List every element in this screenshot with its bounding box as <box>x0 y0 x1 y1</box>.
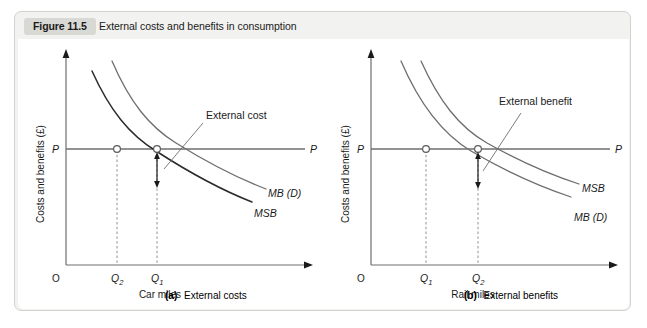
caption-a-text: External costs <box>184 290 247 301</box>
caption-row: (a) External costs (b) External benefits <box>15 290 630 312</box>
marker-q2-b <box>475 146 482 153</box>
origin-label-b: O <box>357 273 365 284</box>
figure-header: Figure 11.5 External costs and benefits … <box>15 12 630 40</box>
curve-label-msb-b: MSB <box>582 182 605 194</box>
curve-msb-b <box>421 61 579 184</box>
caption-a: (a) External costs <box>165 290 247 301</box>
marker-q2-a <box>114 146 121 153</box>
annotation-external-cost: External cost <box>206 109 267 121</box>
caption-b-label: (b) <box>464 290 477 301</box>
origin-label-a: O <box>52 273 60 284</box>
panel-area: External cost MB(D) MSB P P O Q2 <box>18 39 629 309</box>
price-label-left-a: P <box>52 143 59 155</box>
curve-mb-d-b <box>401 61 571 197</box>
caption-b-text: External benefits <box>484 290 559 301</box>
x-axis-a <box>66 262 313 269</box>
y-axis-b <box>368 49 375 265</box>
external-cost-leader <box>164 123 203 169</box>
chart-b-svg: External benefit MSB MB(D) P P O Q1 <box>323 39 628 309</box>
caption-a-label: (a) <box>165 290 177 301</box>
figure-title: External costs and benefits in consumpti… <box>99 18 297 35</box>
chart-a-svg: External cost MB(D) MSB P P O Q2 <box>18 39 323 309</box>
figure-number-badge: Figure 11.5 <box>24 18 96 35</box>
panel-external-benefits: External benefit MSB MB(D) P P O Q1 <box>323 39 628 309</box>
price-label-left-b: P <box>357 143 364 155</box>
external-cost-gap-arrow <box>154 152 160 188</box>
curve-label-mb-d-a: MB(D) <box>268 187 301 199</box>
y-axis-label-a: Costs and benefits (£) <box>35 125 46 223</box>
marker-q1-a <box>154 146 161 153</box>
price-label-right-b: P <box>615 143 622 155</box>
curve-label-msb-a: MSB <box>254 207 277 219</box>
external-benefit-gap-arrow <box>475 152 481 189</box>
tick-q2-a: Q2 <box>111 272 124 287</box>
curve-mb-d-a <box>112 61 266 189</box>
annotation-external-benefit: External benefit <box>499 95 572 107</box>
y-axis-a <box>63 49 70 265</box>
x-axis-b <box>371 262 618 269</box>
curve-label-mb-d-b: MB(D) <box>574 211 607 223</box>
marker-q1-b <box>423 146 430 153</box>
y-axis-label-b: Costs and benefits (£) <box>340 125 351 223</box>
figure-card: Figure 11.5 External costs and benefits … <box>14 11 631 311</box>
curve-msb-a <box>92 71 252 202</box>
price-label-right-a: P <box>310 143 317 155</box>
panel-external-costs: External cost MB(D) MSB P P O Q2 <box>18 39 323 309</box>
caption-b: (b) External benefits <box>464 290 558 301</box>
figure-root: Figure 11.5 External costs and benefits … <box>0 0 647 328</box>
tick-q1-a: Q1 <box>151 272 163 287</box>
tick-q2-b: Q2 <box>472 272 485 287</box>
tick-q1-b: Q1 <box>420 272 432 287</box>
external-benefit-leader <box>483 113 521 171</box>
